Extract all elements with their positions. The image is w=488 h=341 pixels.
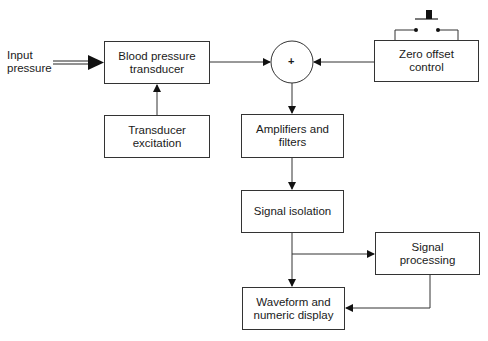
- input-arrow: [53, 55, 104, 70]
- block-processing: Signal processing: [375, 232, 480, 275]
- block-zero-offset: Zero offset control: [374, 40, 479, 82]
- push-switch-icon: [395, 10, 458, 40]
- plus-sign: +: [288, 55, 294, 67]
- block-isolation: Signal isolation: [241, 190, 344, 233]
- block-transducer: Blood pressure transducer: [104, 41, 210, 84]
- block-excitation: Transducer excitation: [104, 115, 210, 158]
- block-amplifiers: Amplifiers and filters: [241, 114, 344, 158]
- input-pressure-label: Input pressure: [7, 49, 52, 75]
- block-display: Waveform and numeric display: [242, 287, 345, 330]
- processing-to-display-arrow: [346, 275, 430, 308]
